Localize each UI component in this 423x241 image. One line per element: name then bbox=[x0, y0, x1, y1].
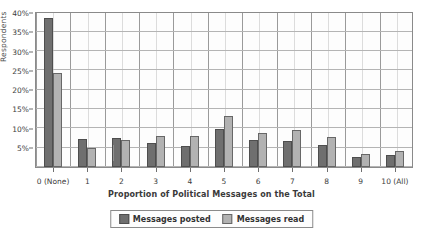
legend-label: Messages posted bbox=[133, 215, 211, 224]
bar-group bbox=[344, 13, 378, 167]
x-axis-tick-mark bbox=[156, 168, 157, 172]
bar-group bbox=[36, 13, 70, 167]
x-axis-tick-mark bbox=[361, 168, 362, 172]
y-axis-tick-labels: 5%10%15%20%25%30%35%40% bbox=[0, 12, 33, 168]
bar-group bbox=[104, 13, 138, 167]
x-axis-tick-label: 6 bbox=[256, 177, 261, 186]
x-axis-tick-label: 7 bbox=[290, 177, 295, 186]
bar[interactable] bbox=[327, 137, 336, 167]
legend-item-messages-read[interactable]: Messages read bbox=[223, 214, 305, 224]
y-axis-tick-label: 25% bbox=[12, 66, 29, 75]
bar[interactable] bbox=[181, 146, 190, 167]
bar[interactable] bbox=[121, 140, 130, 167]
x-axis-tick-label: 4 bbox=[187, 177, 192, 186]
scan-artifact bbox=[113, 145, 114, 161]
y-axis-tick-mark bbox=[29, 32, 33, 33]
y-axis-tick-label: 35% bbox=[12, 28, 29, 37]
bar[interactable] bbox=[224, 116, 233, 167]
bar[interactable] bbox=[44, 18, 53, 167]
bar-group bbox=[241, 13, 275, 167]
chart-legend: Messages posted Messages read bbox=[110, 210, 313, 228]
bar-group bbox=[309, 13, 343, 167]
x-axis-tick-label: 8 bbox=[324, 177, 329, 186]
legend-swatch-icon bbox=[223, 214, 233, 224]
legend-swatch-icon bbox=[119, 214, 129, 224]
x-axis-tick-label: 3 bbox=[153, 177, 158, 186]
bar-group bbox=[275, 13, 309, 167]
bar[interactable] bbox=[258, 133, 267, 167]
x-axis-tick-mark bbox=[395, 168, 396, 172]
x-axis-tick-label: 0 (None) bbox=[37, 177, 70, 186]
bar-group bbox=[207, 13, 241, 167]
bar[interactable] bbox=[53, 73, 62, 167]
bar[interactable] bbox=[395, 151, 404, 167]
bar[interactable] bbox=[190, 136, 199, 167]
y-axis-tick-mark bbox=[29, 51, 33, 52]
bar[interactable] bbox=[249, 140, 258, 167]
x-axis-tick-mark bbox=[224, 168, 225, 172]
bar-group bbox=[139, 13, 173, 167]
x-axis-tick-mark bbox=[292, 168, 293, 172]
legend-item-messages-posted[interactable]: Messages posted bbox=[119, 214, 211, 224]
x-axis-tick-label: 2 bbox=[119, 177, 124, 186]
bar[interactable] bbox=[352, 157, 361, 167]
bar[interactable] bbox=[156, 136, 165, 167]
x-axis-tick-labels: 0 (None)12345678910 (All) bbox=[36, 168, 412, 182]
y-axis-tick-mark bbox=[29, 147, 33, 148]
y-axis-tick-label: 20% bbox=[12, 86, 29, 95]
y-axis-tick-mark bbox=[29, 109, 33, 110]
x-axis-tick-mark bbox=[121, 168, 122, 172]
bar-group bbox=[378, 13, 412, 167]
bar[interactable] bbox=[386, 155, 395, 167]
bar[interactable] bbox=[292, 130, 301, 167]
bar-series-container bbox=[36, 13, 412, 167]
y-axis-tick-mark bbox=[29, 70, 33, 71]
y-axis-tick-mark bbox=[29, 13, 33, 14]
bar[interactable] bbox=[318, 145, 327, 167]
y-axis-tick-mark bbox=[29, 90, 33, 91]
bar[interactable] bbox=[283, 141, 292, 167]
y-axis-tick-mark bbox=[29, 128, 33, 129]
y-axis-tick-label: 30% bbox=[12, 47, 29, 56]
x-axis-tick-mark bbox=[327, 168, 328, 172]
y-axis-tick-label: 5% bbox=[17, 143, 29, 152]
y-axis-tick-label: 40% bbox=[12, 9, 29, 18]
x-axis-tick-label: 1 bbox=[85, 177, 90, 186]
y-axis-tick-label: 10% bbox=[12, 124, 29, 133]
x-axis-tick-mark bbox=[258, 168, 259, 172]
x-axis-tick-label: 5 bbox=[222, 177, 227, 186]
x-axis-tick-label: 10 (All) bbox=[381, 177, 408, 186]
y-axis-tick-label: 15% bbox=[12, 105, 29, 114]
x-axis-title: Proportion of Political Messages on the … bbox=[0, 190, 423, 199]
bar-group bbox=[70, 13, 104, 167]
bar-group bbox=[173, 13, 207, 167]
bar[interactable] bbox=[215, 129, 224, 167]
bar[interactable] bbox=[78, 139, 87, 167]
bar[interactable] bbox=[147, 143, 156, 167]
x-axis-tick-mark bbox=[190, 168, 191, 172]
bar[interactable] bbox=[87, 148, 96, 167]
legend-label: Messages read bbox=[237, 215, 305, 224]
x-axis-tick-label: 9 bbox=[358, 177, 363, 186]
bar[interactable] bbox=[361, 154, 370, 167]
x-axis-tick-mark bbox=[53, 168, 54, 172]
x-axis-tick-mark bbox=[87, 168, 88, 172]
chart-figure: Respondents 5%10%15%20%25%30%35%40% 0 (N… bbox=[0, 0, 423, 241]
